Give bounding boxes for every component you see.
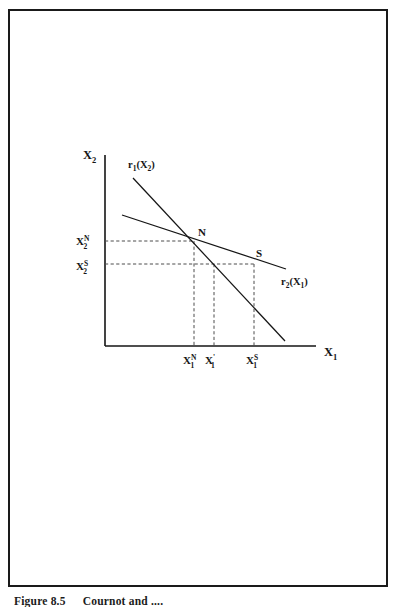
x-tick-labels-group: XN1 X'1 XS1 (183, 353, 258, 370)
point-labels-group: N S (198, 226, 262, 259)
curve-r2 (122, 215, 286, 269)
curves-group (122, 178, 286, 341)
x-tick-label-x1N: XN1 (183, 353, 197, 370)
figure-caption: Figure 8.5 Cournot and .... (14, 595, 384, 607)
figure-caption-text: Cournot and .... (83, 595, 164, 607)
y-tick-labels-group: XN2 XS2 (76, 234, 90, 276)
y-tick-label-x2N: XN2 (76, 234, 90, 251)
page-canvas: X2 X1 r1(X2) r2(X1) N S XN1 X' (0, 0, 398, 607)
x-tick-label-x1prime: X'1 (205, 353, 215, 370)
y-axis-title: X2 (83, 148, 96, 165)
figure-caption-label: Figure 8.5 (14, 595, 66, 607)
curve-labels-group: r1(X2) r2(X1) (128, 159, 308, 290)
axis-titles-group: X2 X1 (83, 148, 337, 362)
figure-diagram: X2 X1 r1(X2) r2(X1) N S XN1 X' (0, 0, 398, 607)
curve-label-r2: r2(X1) (281, 276, 308, 290)
axes-group (105, 155, 316, 346)
x-axis-title: X1 (324, 345, 337, 362)
curve-r1 (133, 178, 285, 341)
curve-label-r1: r1(X2) (128, 159, 155, 173)
x-tick-label-x1S: XS1 (246, 353, 258, 370)
point-label-S: S (256, 247, 262, 259)
point-label-N: N (198, 226, 206, 238)
y-tick-label-x2S: XS2 (76, 259, 88, 276)
guide-lines-group (105, 241, 254, 346)
